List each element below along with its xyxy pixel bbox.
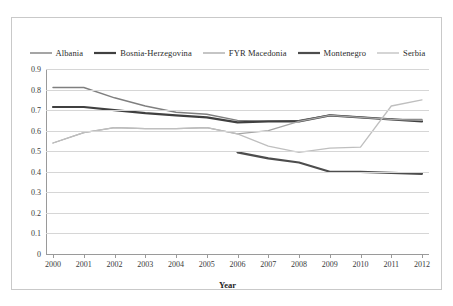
x-tick-label: 2004: [168, 260, 184, 269]
x-tick-label: 2008: [291, 260, 307, 269]
chart-legend: AlbaniaBosnia-HerzegovinaFYR MacedoniaMo…: [12, 45, 443, 61]
x-axis-tick: [53, 254, 54, 258]
x-tick-label: 2000: [45, 260, 61, 269]
y-tick-label: 0: [37, 250, 41, 259]
x-axis-title: Year: [12, 280, 443, 290]
x-axis-tick: [299, 254, 300, 258]
x-axis-tick: [84, 254, 85, 258]
legend-swatch-icon: [203, 50, 225, 56]
legend-label: Bosnia-Herzegovina: [120, 48, 192, 58]
x-axis-tick: [145, 254, 146, 258]
legend-swatch-icon: [30, 50, 52, 56]
legend-label: Serbia: [403, 48, 425, 58]
grid-lines: [46, 69, 429, 254]
x-axis-tick: [361, 254, 362, 258]
x-axis-tick: [330, 254, 331, 258]
y-axis-tick-labels: 00.10.20.30.40.50.60.70.80.9: [12, 69, 44, 254]
legend-swatch-icon: [377, 50, 399, 56]
x-tick-label: 2011: [383, 260, 399, 269]
legend-item[interactable]: FYR Macedonia: [203, 48, 287, 58]
grid-line: [46, 233, 429, 234]
x-axis-tick: [268, 254, 269, 258]
y-tick-label: 0.7: [31, 106, 41, 115]
y-tick-label: 0.6: [31, 126, 41, 135]
y-tick-label: 0.1: [31, 229, 41, 238]
y-tick-label: 0.3: [31, 188, 41, 197]
x-axis-tick: [115, 254, 116, 258]
x-axis-tick: [391, 254, 392, 258]
x-tick-label: 2001: [76, 260, 92, 269]
legend-label: FYR Macedonia: [229, 48, 287, 58]
x-axis-tick: [176, 254, 177, 258]
x-tick-label: 2010: [353, 260, 369, 269]
legend-label: Montenegro: [324, 48, 367, 58]
x-axis-tick-labels: 2000200120022003200420052006200720082009…: [46, 260, 429, 274]
x-tick-label: 2002: [107, 260, 123, 269]
legend-swatch-icon: [298, 50, 320, 56]
grid-line: [46, 151, 429, 152]
plot-area: [46, 69, 429, 254]
grid-line: [46, 131, 429, 132]
grid-line: [46, 192, 429, 193]
x-tick-label: 2006: [230, 260, 246, 269]
legend-item[interactable]: Montenegro: [298, 48, 367, 58]
x-axis-tick: [238, 254, 239, 258]
legend-item[interactable]: Bosnia-Herzegovina: [94, 48, 192, 58]
grid-line: [46, 172, 429, 173]
y-tick-label: 0.2: [31, 208, 41, 217]
legend-item[interactable]: Albania: [30, 48, 84, 58]
legend-item[interactable]: Serbia: [377, 48, 425, 58]
y-tick-label: 0.5: [31, 147, 41, 156]
x-tick-label: 2009: [322, 260, 338, 269]
grid-line: [46, 110, 429, 111]
grid-line: [46, 69, 429, 70]
x-axis-tick: [207, 254, 208, 258]
y-tick-label: 0.9: [31, 65, 41, 74]
y-tick-label: 0.4: [31, 167, 41, 176]
x-tick-label: 2012: [414, 260, 430, 269]
y-tick-label: 0.8: [31, 85, 41, 94]
chart-frame: AlbaniaBosnia-HerzegovinaFYR MacedoniaMo…: [11, 17, 442, 290]
grid-line: [46, 90, 429, 91]
grid-line: [46, 213, 429, 214]
legend-swatch-icon: [94, 50, 116, 56]
x-axis-tick: [422, 254, 423, 258]
x-tick-label: 2005: [199, 260, 215, 269]
x-tick-label: 2003: [137, 260, 153, 269]
x-tick-label: 2007: [260, 260, 276, 269]
legend-label: Albania: [56, 48, 84, 58]
